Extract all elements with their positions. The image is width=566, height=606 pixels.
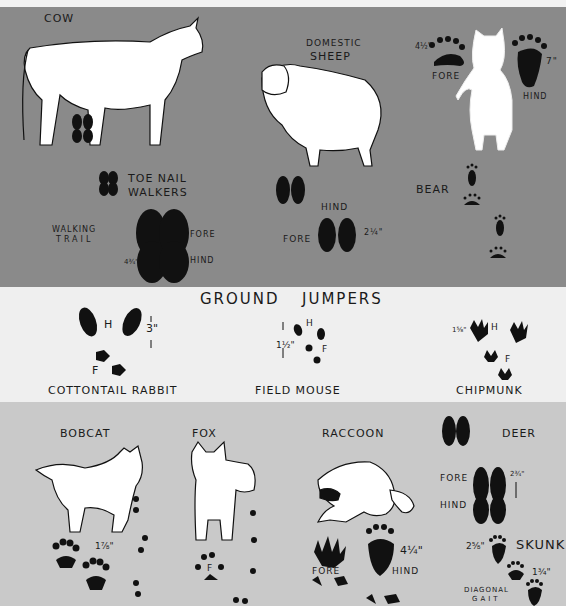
ground-jumpers-title-1: GROUND	[200, 290, 280, 308]
rabbit-size-label: 3"	[146, 322, 158, 335]
walking-trail-hoofprint-icon	[136, 209, 189, 283]
rabbit-tracks-icon	[75, 305, 145, 376]
chipmunk-h-label: H	[491, 322, 499, 332]
chipmunk-f-label: F	[505, 354, 511, 364]
bear-label: BEAR	[416, 183, 450, 196]
fox-label: FOX	[192, 427, 217, 440]
sheep-label-line1: DOMESTIC	[306, 38, 362, 48]
cow-hoofprint-icon	[72, 114, 93, 143]
raccoon-illustration	[318, 462, 414, 522]
bear-trail-icon	[464, 164, 507, 259]
deer-label: DEER	[502, 427, 536, 440]
illustrations	[0, 0, 566, 606]
fox-illustration	[192, 442, 256, 540]
bobcat-label: BOBCAT	[60, 427, 110, 440]
walking-trail-label-line1: WALKING	[52, 225, 96, 234]
ground-jumpers-title-2: JUMPERS	[302, 290, 383, 308]
raccoon-label: RACCOON	[322, 427, 384, 440]
sheep-label-line2: SHEEP	[310, 50, 351, 63]
skunk-size-a-label: 2⅝"	[466, 541, 485, 551]
deer-fore-label: FORE	[440, 473, 468, 483]
skunk-gait-line1: DIAGONAL	[464, 586, 509, 594]
walking-trail-label-line2: TRAIL	[56, 235, 93, 244]
raccoon-size-label: 4¼"	[400, 544, 423, 557]
mouse-label: FIELD MOUSE	[255, 384, 341, 397]
mouse-f-label: F	[322, 344, 328, 354]
walking-trail-size-label: 4¾"	[124, 258, 138, 266]
rabbit-f-label: F	[92, 364, 99, 377]
bear-hind-print-icon	[512, 34, 547, 87]
deer-size-label: 2¾"	[510, 470, 524, 478]
bear-fore-size-label: 4½"	[415, 42, 432, 51]
deer-hind-label: HIND	[440, 500, 467, 510]
sheep-hind-label: HIND	[321, 202, 348, 212]
fox-f-label: F	[207, 563, 213, 573]
bear-hind-size-label: 7"	[546, 56, 558, 66]
skunk-size-b-label: 1¾"	[532, 567, 551, 577]
bobcat-size-label: 1⅞"	[95, 541, 114, 551]
toe-nail-label-line2: WALKERS	[128, 186, 188, 199]
sheep-fore-label: FORE	[283, 234, 311, 244]
toe-nail-label-line1: TOE NAIL	[128, 172, 187, 185]
raccoon-prints-icon	[312, 524, 400, 604]
raccoon-hind-label: HIND	[392, 566, 419, 576]
mouse-tracks-icon	[292, 323, 325, 364]
mouse-h-label: H	[306, 318, 314, 328]
sheep-illustration	[262, 65, 381, 167]
walking-trail-hind-label: HIND	[190, 256, 215, 265]
bobcat-illustration	[36, 446, 142, 532]
sheep-size-label: 2¼"	[364, 228, 384, 237]
toe-nail-hoofprint-icon	[99, 171, 118, 196]
chipmunk-label: CHIPMUNK	[456, 384, 523, 397]
raccoon-fore-label: FORE	[312, 566, 340, 576]
mouse-size-label: 1½"	[276, 340, 295, 350]
bear-hind-label: HIND	[523, 92, 548, 101]
chipmunk-tracks-icon	[470, 319, 528, 380]
bear-fore-print-icon	[429, 36, 465, 66]
skunk-gait-line2: GAIT	[472, 595, 501, 603]
skunk-label: SKUNK	[516, 537, 565, 552]
rabbit-label: COTTONTAIL RABBIT	[48, 384, 178, 397]
rabbit-h-label: H	[104, 318, 113, 331]
walking-trail-fore-label: FORE	[190, 230, 216, 239]
bear-fore-label: FORE	[432, 71, 460, 81]
cow-label: COW	[44, 12, 74, 25]
chipmunk-size-label: 1⅝"	[452, 326, 466, 334]
cow-illustration	[23, 18, 203, 145]
